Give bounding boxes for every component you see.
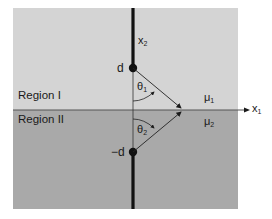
region-i-label: Region I — [18, 90, 61, 102]
x1-axis-label: x1 — [252, 103, 261, 115]
theta1-label: θ1 — [137, 81, 147, 93]
mu2-label: μ2 — [204, 116, 214, 128]
x2-axis-label: x2 — [138, 35, 147, 47]
d-label: d — [117, 62, 124, 74]
theta1-arc — [133, 92, 154, 101]
theta2-label: θ2 — [137, 124, 147, 136]
diagram-graphics — [0, 0, 272, 219]
mu1-label: μ1 — [204, 92, 214, 104]
region-ii-label: Region II — [18, 114, 64, 126]
x1-axis-arrow-icon — [244, 108, 250, 113]
minus-d-label: −d — [111, 146, 125, 158]
